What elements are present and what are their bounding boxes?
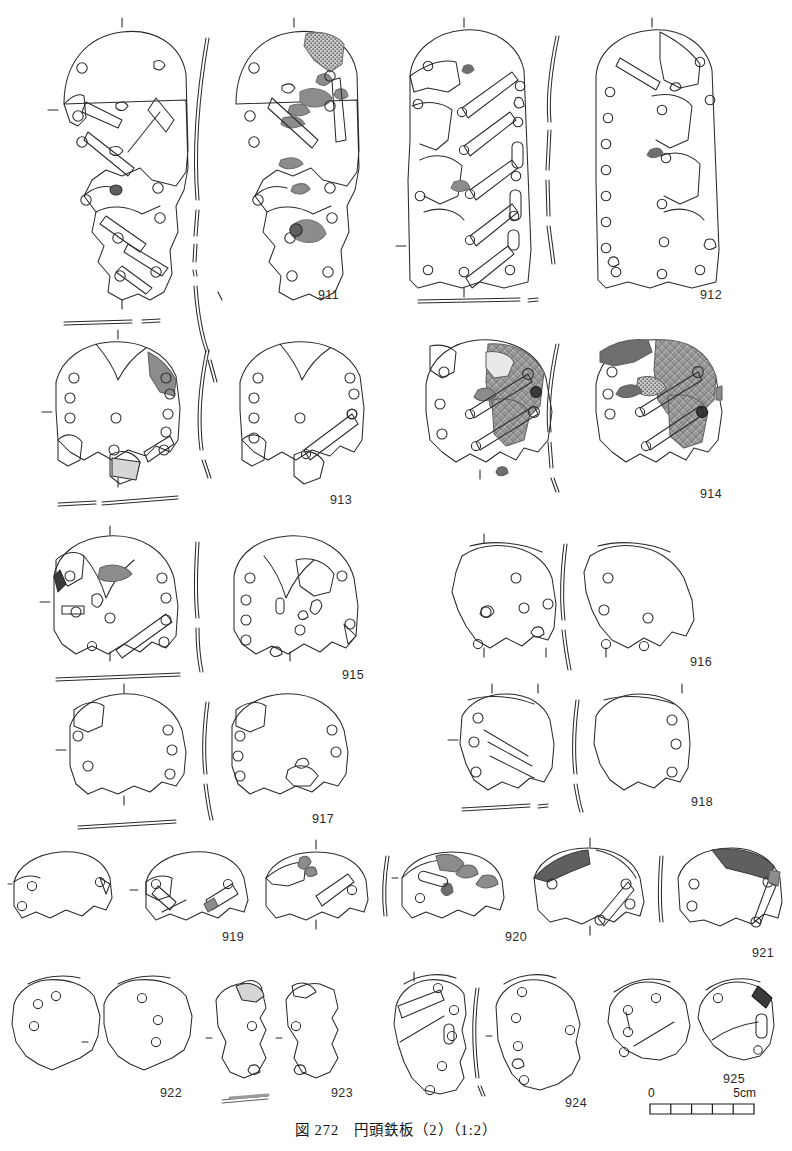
object-916-back-view bbox=[584, 543, 694, 657]
object-label-918: 918 bbox=[691, 795, 713, 809]
object-914-back-view bbox=[596, 340, 722, 463]
object-label-919: 919 bbox=[222, 930, 244, 944]
object-913 bbox=[42, 330, 364, 506]
object-912-front-view bbox=[396, 18, 538, 303]
object-920-view-a bbox=[392, 852, 504, 918]
object-label-914: 914 bbox=[700, 487, 722, 501]
object-922-view-b bbox=[104, 976, 192, 1070]
object-912-back-view bbox=[596, 18, 719, 288]
object-925 bbox=[608, 979, 774, 1060]
object-label-921: 921 bbox=[752, 946, 774, 960]
scale-bar: 0 5cm bbox=[648, 1086, 756, 1116]
object-919-section bbox=[383, 856, 389, 916]
object-917-back-view bbox=[232, 694, 348, 794]
object-923-view-a bbox=[206, 981, 268, 1103]
object-916-front-view bbox=[452, 534, 556, 657]
object-label-912: 912 bbox=[700, 288, 722, 302]
object-915 bbox=[40, 526, 358, 681]
object-914-front-view bbox=[426, 340, 552, 479]
object-925-view-b bbox=[698, 979, 774, 1060]
object-label-923: 923 bbox=[331, 1086, 353, 1100]
object-920-view-c bbox=[678, 848, 782, 927]
figure-caption: 図 272 円頭鉄板（2）（1:2） bbox=[0, 1118, 792, 1139]
object-label-922: 922 bbox=[160, 1086, 182, 1100]
object-911-front-view bbox=[48, 18, 188, 309]
object-label-920: 920 bbox=[505, 930, 527, 944]
object-919-view-a bbox=[8, 852, 112, 918]
object-923-view-b bbox=[276, 983, 338, 1078]
object-913-back-view bbox=[240, 342, 364, 484]
object-920-section bbox=[659, 856, 664, 922]
object-918-back-view bbox=[594, 684, 690, 790]
object-925-view-a bbox=[608, 979, 690, 1060]
archaeological-plate-drawing bbox=[0, 0, 792, 1151]
object-911-back-view bbox=[236, 18, 359, 300]
object-918 bbox=[448, 684, 690, 812]
object-914-section bbox=[547, 344, 559, 492]
object-label-924: 924 bbox=[565, 1096, 587, 1110]
object-914 bbox=[426, 340, 722, 493]
object-label-913: 913 bbox=[330, 493, 352, 507]
scale-bar-graphic bbox=[648, 1102, 756, 1118]
object-912 bbox=[396, 18, 719, 303]
scale-bar-end-label: 5cm bbox=[733, 1086, 756, 1100]
object-922-view-a bbox=[12, 976, 100, 1070]
object-923 bbox=[206, 981, 338, 1103]
object-915-front-view bbox=[40, 526, 180, 681]
object-924-view-b bbox=[486, 975, 580, 1090]
object-924 bbox=[394, 972, 580, 1096]
object-label-917: 917 bbox=[312, 812, 334, 826]
object-916-section bbox=[561, 544, 571, 670]
object-918-section bbox=[573, 700, 583, 812]
object-920 bbox=[392, 838, 782, 935]
object-913-front-view bbox=[42, 330, 180, 506]
object-919-view-b bbox=[130, 852, 248, 920]
object-920-view-b bbox=[534, 838, 644, 935]
object-924-view-a bbox=[394, 972, 466, 1095]
object-919-view-c bbox=[266, 840, 368, 929]
object-label-925: 925 bbox=[723, 1072, 745, 1086]
object-918-front-view bbox=[448, 684, 554, 811]
object-912-section bbox=[546, 36, 559, 264]
object-922 bbox=[12, 976, 192, 1070]
scale-bar-start-label: 0 bbox=[648, 1086, 655, 1100]
object-913-section bbox=[198, 350, 211, 478]
object-917-front-view bbox=[56, 684, 186, 829]
object-919 bbox=[8, 840, 389, 929]
object-915-back-view bbox=[234, 536, 358, 661]
object-916 bbox=[452, 534, 694, 670]
object-917 bbox=[56, 684, 348, 829]
object-924-section bbox=[473, 988, 485, 1096]
object-label-911: 911 bbox=[318, 288, 339, 302]
object-915-section bbox=[195, 542, 204, 672]
object-911-section bbox=[193, 38, 222, 382]
object-917-section bbox=[203, 702, 213, 820]
object-label-916: 916 bbox=[690, 655, 712, 669]
object-label-915: 915 bbox=[342, 668, 364, 682]
object-911 bbox=[48, 18, 359, 382]
